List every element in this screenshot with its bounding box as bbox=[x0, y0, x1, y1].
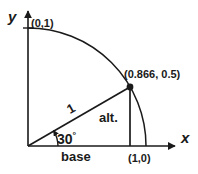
y-axis-label: y bbox=[8, 9, 16, 24]
coordinate-label-1-0: (1,0) bbox=[128, 153, 151, 164]
angle-label-30-degrees: 30° bbox=[57, 131, 76, 146]
unit-circle-triangle-figure: y x (0,1) (1,0) (0.866, 0.5) 1 30° base … bbox=[0, 0, 198, 174]
diagram-canvas bbox=[0, 0, 198, 174]
x-axis-label: x bbox=[181, 130, 189, 145]
angle-value: 30 bbox=[57, 131, 73, 147]
altitude-label: alt. bbox=[99, 111, 118, 124]
point-marker-0866-05 bbox=[127, 84, 134, 91]
coordinate-label-0-1: (0,1) bbox=[31, 18, 54, 29]
degree-symbol: ° bbox=[73, 130, 77, 140]
base-label: base bbox=[61, 150, 91, 163]
coordinate-label-0866-05: (0.866, 0.5) bbox=[124, 69, 180, 80]
